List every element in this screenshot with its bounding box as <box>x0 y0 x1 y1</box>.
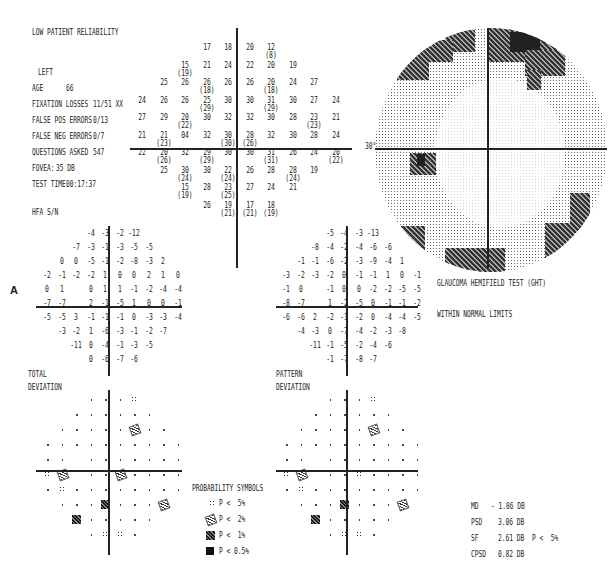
probability-dot <box>417 459 419 461</box>
questions-value: 547 <box>93 148 104 157</box>
grid-value: 27 <box>132 114 151 122</box>
threshold-h-axis <box>130 148 352 150</box>
probability-dot <box>91 429 93 431</box>
probability-dot <box>373 489 375 491</box>
probability-dot <box>134 489 136 491</box>
grid-value: 0 <box>168 272 187 280</box>
probability-symbol-icon <box>356 471 362 477</box>
grid-value: 24 <box>326 97 345 105</box>
probability-symbol-icon <box>129 424 142 437</box>
probability-dot <box>163 459 165 461</box>
probability-dot <box>120 459 122 461</box>
grid-value: 15(19) <box>175 184 194 200</box>
greyscale-field-map <box>375 28 607 272</box>
grid-value: 26 <box>218 79 237 87</box>
grid-value: 32 <box>218 114 237 122</box>
probability-dot <box>359 429 361 431</box>
greyscale-dark-defect <box>417 154 425 166</box>
grid-value: 04 <box>175 132 194 140</box>
probability-dot <box>359 519 361 521</box>
grid-value: 18(19) <box>261 202 280 218</box>
probability-dot <box>120 489 122 491</box>
grid-value: 30 <box>240 149 259 157</box>
probability-dot <box>47 444 49 446</box>
probability-dot <box>417 474 419 476</box>
total-deviation-v-axis <box>108 226 110 376</box>
probability-symbol-icon <box>370 396 376 402</box>
grid-value: 31(29) <box>261 97 280 113</box>
probability-symbol-icon <box>368 424 381 437</box>
grid-value: 17(21) <box>240 202 259 218</box>
grid-value: -7 <box>153 328 172 336</box>
probability-dot <box>388 489 390 491</box>
ght-result: WITHIN NORMAL LIMITS <box>437 310 512 319</box>
false-pos-value: 0/13 <box>93 116 108 125</box>
probability-dot <box>105 399 107 401</box>
grid-value: 20 <box>261 62 280 70</box>
probability-dot <box>301 459 303 461</box>
grid-value: 30 <box>218 97 237 105</box>
grid-value: 23(23) <box>304 114 323 130</box>
probability-dot <box>359 399 361 401</box>
fixation-losses-value: 11/51 XX <box>93 100 123 109</box>
grid-value: 32 <box>261 132 280 140</box>
grid-value: 30 <box>283 132 302 140</box>
grid-value: 26 <box>197 202 216 210</box>
probability-dot <box>149 429 151 431</box>
sf-p-value: P < 5% <box>532 534 558 543</box>
probability-dot <box>330 534 332 536</box>
grid-value: -12 <box>124 230 143 238</box>
grid-value: -5 <box>139 342 158 350</box>
probability-dot <box>417 444 419 446</box>
grid-value: 32 <box>240 114 259 122</box>
eye-label: LEFT <box>38 68 53 77</box>
probability-dot <box>301 429 303 431</box>
probability-dot <box>402 474 404 476</box>
grid-value: 19(21) <box>218 202 237 218</box>
probability-dot <box>330 414 332 416</box>
probability-dot <box>163 444 165 446</box>
probability-dot <box>373 444 375 446</box>
probability-symbol-icon <box>59 486 65 492</box>
probability-dot <box>105 444 107 446</box>
probability-dot <box>91 534 93 536</box>
grid-value: 25(29) <box>197 97 216 113</box>
p2-label: P < 2% <box>219 515 245 524</box>
probability-dot <box>330 399 332 401</box>
probability-dot <box>76 489 78 491</box>
p05-symbol-icon <box>206 547 214 555</box>
probability-dot <box>91 489 93 491</box>
fovea-label: FOVEA: <box>32 164 55 173</box>
grid-value: 28(26) <box>240 132 259 148</box>
probability-dot <box>47 489 49 491</box>
probability-dot <box>134 474 136 476</box>
false-neg-value: 0/7 <box>93 132 104 141</box>
psd-value: 3.06 DB <box>498 518 524 527</box>
probability-dot <box>330 504 332 506</box>
sf-value: 2.61 DB <box>498 534 524 543</box>
probability-dot <box>149 519 151 521</box>
grid-value: 22(24) <box>218 167 237 183</box>
probability-dot <box>134 534 136 536</box>
grid-value: 2 <box>153 258 172 266</box>
probability-dot <box>149 459 151 461</box>
grid-value: -13 <box>363 230 382 238</box>
probability-symbol-icon <box>283 471 289 477</box>
probability-dot <box>134 459 136 461</box>
probability-dot <box>105 414 107 416</box>
probability-symbol-icon <box>356 531 362 537</box>
probability-symbol-icon <box>298 486 304 492</box>
probability-dot <box>388 444 390 446</box>
grid-value: -5 <box>407 286 426 294</box>
probability-symbol-icon <box>311 515 320 524</box>
grid-value: 25 <box>154 79 173 87</box>
grid-value: 32 <box>175 149 194 157</box>
probability-dot <box>359 414 361 416</box>
probability-dot <box>388 474 390 476</box>
probability-dot <box>76 444 78 446</box>
grid-value: 21 <box>197 62 216 70</box>
probability-symbol-icon <box>397 499 410 512</box>
grid-value: -6 <box>378 244 397 252</box>
probability-dot <box>163 474 165 476</box>
probability-dot <box>301 504 303 506</box>
